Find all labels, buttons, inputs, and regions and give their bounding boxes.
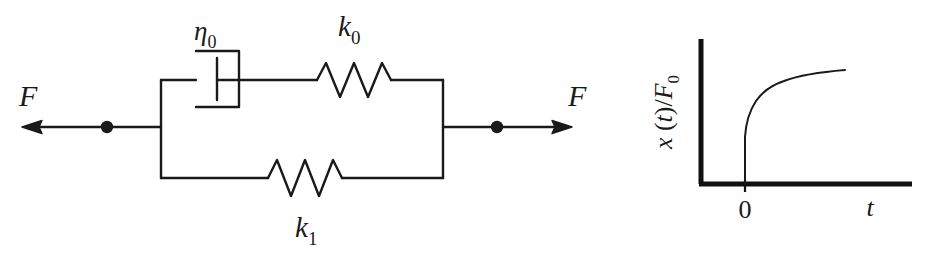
figure-root: F F η0 k0 k1 0 — [0, 0, 933, 258]
dashpot-label: η0 — [194, 16, 216, 52]
chart-series-creep-response — [745, 70, 845, 184]
force-right-label: F — [567, 79, 587, 112]
chart-yaxis-label: x (t)/F0 — [649, 75, 683, 150]
spring-k1 — [268, 160, 342, 196]
creep-response-chart: 0 t x (t)/F0 — [649, 39, 912, 224]
right-node-dot — [491, 121, 503, 133]
spring-k1-label: k1 — [295, 211, 317, 249]
chart-xtick-label-0: 0 — [739, 195, 752, 224]
spring-k0-label: k0 — [338, 10, 360, 48]
force-left-label: F — [18, 79, 38, 112]
left-force-arrowhead — [22, 121, 42, 134]
left-node-dot — [101, 121, 113, 133]
chart-xaxis-label: t — [866, 193, 874, 222]
figure-svg: F F η0 k0 k1 0 — [0, 0, 933, 258]
spring-k0 — [317, 63, 391, 97]
right-force-arrowhead — [552, 121, 572, 134]
viscoelastic-model-schematic — [22, 51, 572, 196]
